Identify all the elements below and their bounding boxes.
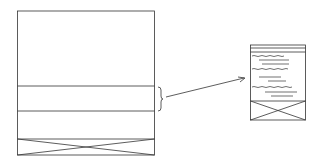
image-placeholder-cross [251, 101, 306, 120]
arrow-icon [166, 77, 245, 97]
wireframe-diagram [0, 0, 321, 164]
text-lines [252, 56, 297, 97]
brace-icon [158, 87, 163, 111]
right-detail-wireframe [251, 45, 306, 120]
left-page-wireframe [18, 11, 155, 155]
image-placeholder-cross [18, 139, 155, 155]
